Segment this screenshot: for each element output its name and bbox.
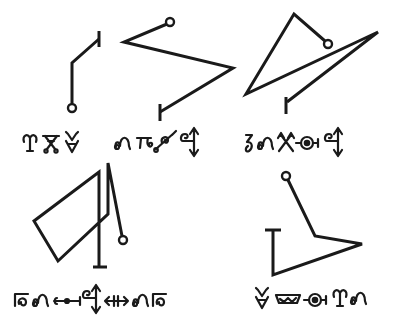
- omega-loop-glyph: [258, 138, 273, 149]
- circled-dot-bar-glyph: [304, 294, 326, 306]
- sigil-2-path: [124, 24, 233, 112]
- glyph-row-2: [115, 128, 198, 156]
- sigil-2: [124, 18, 233, 121]
- sigil-3-path: [246, 14, 378, 102]
- boxed-loop-glyph: [153, 294, 166, 306]
- cup-fork-glyph: [256, 288, 268, 308]
- sigil-4-path: [34, 163, 122, 267]
- crossed-arrows-glyph: [278, 133, 294, 151]
- sigil-1-path: [72, 39, 99, 103]
- glyph-row-5: [256, 288, 366, 308]
- aries-like-glyph: [24, 135, 37, 151]
- double-arrow-staff-glyph: [83, 285, 100, 313]
- crossed-bar-arrow-glyph: [105, 296, 128, 306]
- pi-hook-glyph: [137, 138, 152, 148]
- double-arrow-staff-glyph: [181, 128, 198, 156]
- omega-loop-glyph: [33, 295, 48, 306]
- omega-loop-glyph: [133, 295, 148, 306]
- sigil-plate: [0, 0, 399, 328]
- dotted-line-glyph: [54, 297, 80, 305]
- glyph-row-1: [24, 132, 78, 153]
- sigil-5-start-circle: [282, 172, 290, 180]
- wave-trough-glyph: [276, 295, 300, 303]
- sigil-2-start-circle: [166, 18, 174, 26]
- sigil-1-start-circle: [68, 104, 76, 112]
- zeta-hook-glyph: [246, 135, 252, 151]
- circled-dot-bar-glyph: [296, 137, 318, 149]
- double-arrow-staff-glyph: [325, 128, 342, 156]
- sigil-5-path: [273, 180, 362, 275]
- curved-staff-glyph: [154, 131, 176, 152]
- sigil-3: [246, 14, 378, 114]
- sigil-3-start-circle: [324, 40, 332, 48]
- triangle-knot-glyph: [43, 136, 59, 153]
- sigil-4: [34, 163, 127, 267]
- glyph-row-4: [15, 285, 166, 313]
- cup-fork-glyph: [66, 132, 78, 152]
- sigil-1: [68, 31, 99, 112]
- aries-like-glyph: [334, 290, 347, 306]
- omega-loop-glyph: [115, 138, 130, 149]
- glyph-row-3: [246, 128, 342, 156]
- boxed-loop-glyph: [15, 294, 28, 306]
- sigil-5: [265, 172, 362, 275]
- omega-loop-glyph: [351, 293, 366, 304]
- sigil-4-start-circle: [119, 236, 127, 244]
